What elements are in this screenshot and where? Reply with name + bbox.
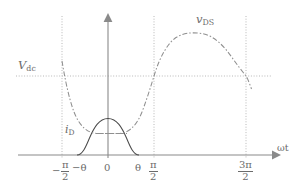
fraction-pi-over-two: π 2 <box>61 160 70 182</box>
fraction-numerator: 3π <box>238 160 253 170</box>
label-id: iD <box>65 124 75 137</box>
tick-label-three-pi-over-2: 3π 2 <box>238 160 253 182</box>
tick-label-minus-theta: −θ <box>72 163 86 173</box>
tick-label-theta: θ <box>135 163 141 173</box>
tick-label-minus-pi-over-2: − π 2 <box>52 160 69 182</box>
fraction-denominator: 2 <box>61 172 70 182</box>
tick-label-zero: 0 <box>104 163 110 173</box>
fraction-three-pi-over-two: 3π 2 <box>238 160 253 182</box>
fraction-denominator: 2 <box>238 172 253 182</box>
fraction-numerator: π <box>61 160 70 170</box>
y-axis-arrowhead <box>104 13 113 22</box>
tick-minus-sign: − <box>52 166 60 176</box>
fraction-denominator: 2 <box>149 172 158 182</box>
curve-vds-drain-source-voltage <box>62 33 252 134</box>
label-id-subscript: D <box>69 128 75 137</box>
fraction-numerator: π <box>149 160 158 170</box>
fraction-pi-over-two: π 2 <box>149 160 158 182</box>
label-vds-subscript: DS <box>203 18 215 27</box>
label-vdc-subscript: dc <box>26 64 36 73</box>
waveform-figure: Vdc vDS iD ωt − π 2 −θ 0 θ π 2 <box>0 0 298 193</box>
tick-label-pi-over-2: π 2 <box>149 160 158 182</box>
label-omega-t: ωt <box>277 143 289 153</box>
label-vds: vDS <box>196 14 214 27</box>
label-vdc: Vdc <box>18 60 36 73</box>
